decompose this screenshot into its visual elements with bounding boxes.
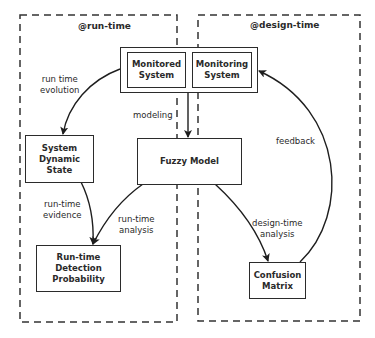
monitoring-system-node[interactable]: Monitoring System — [192, 52, 252, 88]
system-dynamic-state-node[interactable]: System Dynamic State — [25, 135, 94, 183]
design-time-region-title: @design-time — [250, 20, 319, 30]
confusion-matrix-node[interactable]: Confusion Matrix — [249, 262, 306, 299]
feedback-label: feedback — [276, 136, 315, 147]
run-time-region-title: @run-time — [78, 21, 131, 31]
run-time-analysis-label: run-time analysis — [118, 214, 155, 235]
modeling-label: modeling — [133, 110, 173, 121]
fuzzy-model-node[interactable]: Fuzzy Model — [137, 138, 242, 185]
run-time-evidence-label: run-time evidence — [43, 199, 82, 220]
run-time-evolution-label: run time evolution — [40, 74, 80, 95]
runtime-detection-probability-node[interactable]: Run-time Detection Probability — [36, 245, 121, 292]
design-time-analysis-label: design-time analysis — [252, 218, 302, 239]
monitored-system-node[interactable]: Monitored System — [127, 52, 186, 88]
run-time-evidence-arrow — [81, 182, 93, 244]
